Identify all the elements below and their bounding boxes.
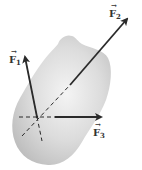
f2-subscript: 2 [116, 12, 121, 21]
f2-label: → F 2 [109, 1, 121, 21]
f3-subscript: 3 [100, 131, 105, 140]
force-diagram: → F 1 → F 2 → F 3 [0, 0, 142, 170]
f1-subscript: 1 [16, 58, 21, 67]
f3-label: → F 3 [93, 120, 105, 140]
f1-label: → F 1 [9, 47, 21, 67]
point-of-concurrence [36, 116, 38, 118]
